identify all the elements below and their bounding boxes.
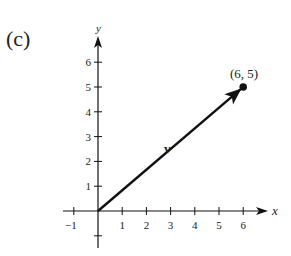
y-tick-label: 6 — [86, 56, 92, 68]
vector-diagram: (c) x y −1123456 123456 v (6, 5) — [0, 0, 291, 256]
y-tick-label: 5 — [86, 81, 92, 93]
y-tick-label: 2 — [86, 155, 92, 167]
vector-label: v — [164, 141, 171, 156]
x-tick-label: 3 — [168, 219, 174, 231]
x-tick-label: −1 — [65, 219, 77, 231]
x-tick-label: 1 — [119, 219, 125, 231]
x-tick-label: 6 — [240, 219, 246, 231]
panel-label: (c) — [6, 26, 30, 51]
y-tick-label: 3 — [86, 131, 92, 143]
y-tick-label: 1 — [86, 180, 92, 192]
y-axis-label: y — [95, 22, 101, 34]
x-tick-label: 4 — [192, 219, 198, 231]
x-tick-label: 5 — [216, 219, 222, 231]
point-marker — [239, 83, 247, 91]
point-label: (6, 5) — [230, 66, 258, 81]
x-tick-label: 2 — [144, 219, 150, 231]
x-axis-label: x — [271, 203, 278, 218]
y-axis: y — [94, 22, 102, 248]
y-tick-label: 4 — [86, 106, 92, 118]
